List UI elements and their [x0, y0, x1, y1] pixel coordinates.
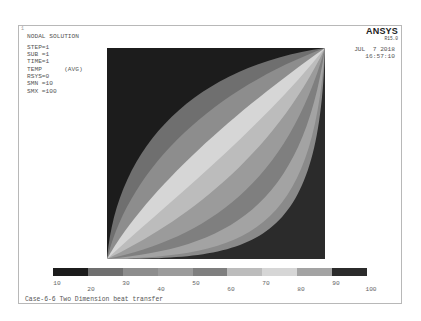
- timestamp: JUL 7 2018 16:57:10: [354, 46, 395, 60]
- legend-label-40: 40: [157, 286, 164, 293]
- legend-band-1: [53, 268, 88, 276]
- legend-label-70: 70: [262, 280, 269, 287]
- legend-band-7: [262, 268, 297, 276]
- legend-band-3: [123, 268, 158, 276]
- ansys-brand: ANSYS R15.0: [366, 27, 398, 41]
- step-label: STEP=1: [27, 44, 49, 51]
- sub-label: SUB =1: [27, 51, 49, 58]
- legend-label-50: 50: [192, 280, 199, 287]
- legend-band-8: [297, 268, 332, 276]
- ansys-version: R15.0: [366, 36, 398, 41]
- time-label: TIME=1: [27, 58, 49, 65]
- legend-band-6: [227, 268, 262, 276]
- color-legend-bar: [53, 268, 367, 276]
- solution-info-panel: NODAL SOLUTIONSTEP=1 SUB =1 TIME=1 TEMP …: [27, 33, 83, 95]
- avg-label: (AVG): [64, 66, 83, 73]
- legend-label-80: 80: [297, 286, 304, 293]
- legend-label-10: 10: [53, 280, 60, 287]
- temp-label: TEMP: [27, 66, 42, 73]
- legend-label-100: 100: [365, 286, 376, 293]
- solution-title: NODAL SOLUTION: [27, 33, 83, 40]
- legend-band-4: [158, 268, 193, 276]
- window-number: 1: [21, 26, 24, 32]
- date-label: JUL 7 2018: [354, 46, 395, 53]
- legend-band-5: [193, 268, 228, 276]
- ansys-logo: ANSYS: [366, 27, 398, 36]
- smn-label: SMN =10: [27, 80, 53, 87]
- time-of-day-label: 16:57:10: [365, 53, 395, 60]
- legend-band-2: [88, 268, 123, 276]
- plot-caption: Case-6-6 Two Dimension beat transfer: [25, 296, 163, 303]
- rsys-label: RSYS=0: [27, 73, 49, 80]
- contour-plot: [107, 48, 325, 259]
- legend-label-90: 90: [332, 280, 339, 287]
- legend-label-60: 60: [227, 286, 234, 293]
- legend-band-9: [332, 268, 367, 276]
- smx-label: SMX =100: [27, 88, 57, 95]
- legend-label-30: 30: [122, 280, 129, 287]
- legend-label-20: 20: [87, 286, 94, 293]
